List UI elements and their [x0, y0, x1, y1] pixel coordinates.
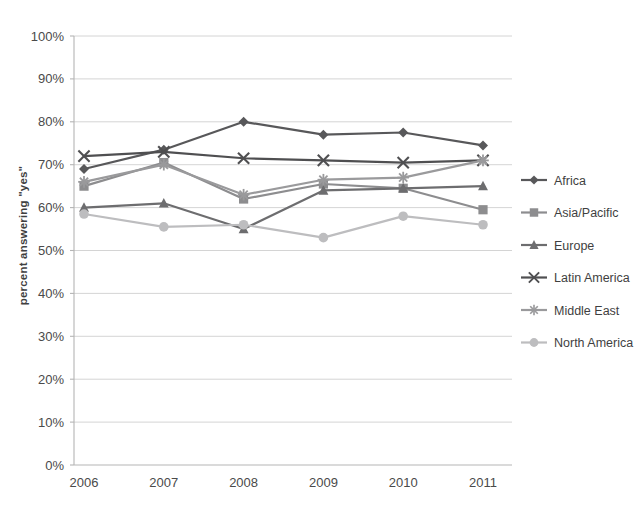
marker-circle — [478, 220, 488, 230]
x-axis-tick-labels: 200620072008200920102011 — [70, 475, 497, 490]
y-tick-label: 50% — [38, 243, 64, 258]
marker-circle — [79, 209, 89, 219]
x-tick-label: 2007 — [149, 475, 178, 490]
legend-item-asia-pacific[interactable]: Asia/Pacific — [521, 206, 619, 220]
marker-diamond — [239, 117, 249, 127]
series-line — [84, 214, 483, 238]
legend-label: Africa — [554, 174, 586, 188]
gridlines — [74, 36, 512, 422]
y-axis-title: percent answering "yes" — [17, 166, 29, 306]
series-europe — [79, 181, 488, 234]
x-tick-label: 2011 — [469, 475, 497, 490]
marker-asterisk — [318, 174, 330, 186]
marker-diamond — [79, 164, 89, 174]
legend-item-europe[interactable]: Europe — [521, 239, 594, 253]
legend-item-africa[interactable]: Africa — [521, 174, 586, 188]
x-tick-label: 2009 — [309, 475, 338, 490]
y-tick-label: 90% — [38, 71, 64, 86]
y-tick-label: 70% — [38, 157, 64, 172]
series-group — [78, 117, 489, 243]
legend-item-latin-america[interactable]: Latin America — [521, 271, 630, 285]
legend-label: Latin America — [554, 271, 630, 285]
y-tick-label: 60% — [38, 200, 64, 215]
marker-circle — [239, 220, 249, 230]
y-tick-label: 80% — [38, 114, 64, 129]
series-north-america — [79, 209, 488, 242]
y-tick-label: 10% — [38, 415, 64, 430]
marker-diamond — [318, 130, 328, 140]
marker-diamond — [478, 140, 488, 150]
marker-diamond — [398, 128, 408, 138]
legend: AfricaAsia/PacificEuropeLatin AmericaMid… — [521, 174, 633, 351]
marker-circle — [319, 233, 329, 243]
marker-asterisk — [238, 189, 250, 201]
marker-asterisk — [158, 159, 170, 171]
marker-circle — [398, 211, 408, 221]
y-tick-label: 0% — [45, 458, 64, 473]
y-tick-label: 40% — [38, 286, 64, 301]
chart-container: 0%10%20%30%40%50%60%70%80%90%100%2006200… — [0, 0, 641, 528]
marker-diamond — [529, 175, 538, 184]
marker-circle — [159, 222, 169, 232]
x-tick-label: 2006 — [70, 475, 99, 490]
marker-asterisk — [477, 155, 489, 167]
marker-asterisk — [529, 305, 540, 316]
series-line — [84, 152, 483, 163]
legend-label: Asia/Pacific — [554, 206, 619, 220]
marker-square — [478, 205, 487, 214]
x-tick-label: 2008 — [229, 475, 258, 490]
y-axis-title-text: percent answering "yes" — [17, 166, 29, 306]
legend-item-north-america[interactable]: North America — [521, 336, 633, 350]
x-tick-label: 2010 — [389, 475, 418, 490]
legend-label: Europe — [554, 239, 594, 253]
legend-item-middle-east[interactable]: Middle East — [521, 304, 620, 318]
y-axis-tick-labels: 0%10%20%30%40%50%60%70%80%90%100% — [31, 29, 74, 473]
legend-label: Middle East — [554, 304, 620, 318]
legend-label: North America — [554, 336, 633, 350]
marker-asterisk — [397, 172, 409, 184]
marker-asterisk — [78, 176, 90, 188]
line-chart: 0%10%20%30%40%50%60%70%80%90%100%2006200… — [0, 0, 641, 528]
series-africa — [79, 117, 488, 174]
marker-circle — [530, 338, 539, 347]
y-tick-label: 20% — [38, 372, 64, 387]
series-line — [84, 160, 483, 194]
y-tick-label: 100% — [31, 29, 65, 44]
y-tick-label: 30% — [38, 329, 64, 344]
marker-square — [530, 208, 538, 216]
